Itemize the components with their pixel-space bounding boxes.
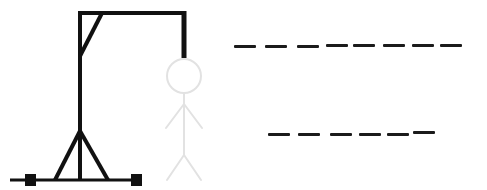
gallows-left-leg <box>55 131 80 180</box>
figure-head <box>167 59 201 93</box>
letter-blank <box>326 44 348 47</box>
figure-left-leg <box>167 155 184 180</box>
letter-blank <box>234 45 256 48</box>
letter-blank <box>298 133 320 136</box>
letter-blank <box>330 133 352 136</box>
letter-blank <box>413 131 435 134</box>
gallows-brace <box>80 13 102 56</box>
letter-blank <box>353 44 375 47</box>
letter-blank <box>265 45 287 48</box>
hangman-board <box>0 0 487 190</box>
letter-blank <box>359 133 381 136</box>
letter-blank <box>412 44 434 47</box>
letter-blank <box>387 133 409 136</box>
figure-right-arm <box>184 104 202 128</box>
letter-blank <box>440 44 462 47</box>
letter-blank <box>297 45 319 48</box>
gallows <box>10 11 186 181</box>
letter-blank <box>268 133 290 136</box>
gallows-drawing <box>0 0 487 190</box>
hanged-figure <box>166 59 202 180</box>
gallows-right-leg <box>80 131 108 180</box>
gallows-left-foot <box>25 174 36 186</box>
gallows-right-foot <box>131 174 142 186</box>
figure-right-leg <box>184 155 201 180</box>
letter-blank <box>383 44 405 47</box>
figure-left-arm <box>166 104 184 128</box>
